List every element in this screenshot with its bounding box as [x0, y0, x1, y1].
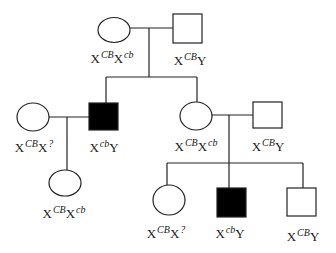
allele-base: X — [42, 206, 51, 221]
allele-base: X — [147, 226, 156, 241]
female-symbol-gen2-wife — [17, 103, 49, 131]
allele-base: X — [170, 226, 179, 241]
allele-superscript: CB — [157, 224, 170, 235]
allele-superscript: CB — [25, 138, 38, 149]
allele-superscript: CB — [184, 51, 197, 62]
allele-superscript: ? — [48, 138, 53, 149]
allele-superscript: CB — [185, 137, 198, 148]
allele-base: Y — [275, 139, 284, 154]
genotype-label-gen1-father: XCBY — [174, 52, 207, 67]
allele-base: X — [215, 226, 224, 241]
allele-superscript: CB — [262, 137, 275, 148]
genotype-label-gen1-mother: XCBXcb — [90, 50, 133, 65]
allele-superscript: ? — [180, 224, 185, 235]
female-symbol-gen1-mother — [98, 18, 130, 43]
genotype-label-gen2-wife: XCBX? — [15, 139, 54, 154]
allele-superscript: cb — [76, 204, 85, 215]
allele-superscript: cb — [100, 138, 109, 149]
allele-superscript: cb — [208, 137, 217, 148]
female-symbol-gen3-granddaughter-left — [49, 170, 81, 196]
affected-male-symbol-gen3-grandson — [217, 188, 246, 217]
allele-base: X — [114, 51, 123, 66]
allele-base: X — [287, 229, 296, 244]
genotype-label-gen2-son: XcbY — [89, 139, 118, 154]
male-symbol-gen1-father — [173, 14, 202, 43]
allele-base: X — [15, 140, 24, 155]
allele-base: X — [252, 139, 261, 154]
allele-base: Y — [235, 226, 244, 241]
allele-superscript: CB — [101, 49, 114, 60]
allele-base: X — [89, 140, 98, 155]
genotype-label-gen2-husband: XCBY — [252, 138, 285, 153]
genotype-label-gen2-daughter: XCBXcb — [174, 138, 217, 153]
allele-base: Y — [197, 53, 206, 68]
allele-superscript: CB — [297, 227, 310, 238]
allele-base: Y — [109, 140, 118, 155]
genotype-label-gen3-grandson-affected: XcbY — [215, 225, 244, 240]
allele-base: X — [90, 51, 99, 66]
male-symbol-gen3-grandson-unaffected — [287, 188, 316, 216]
genotype-label-gen3-granddaughter-left: XCBXcb — [42, 205, 85, 220]
allele-base: X — [38, 140, 47, 155]
allele-base: Y — [310, 229, 319, 244]
allele-base: X — [174, 139, 183, 154]
genotype-label-gen3-grandson-unaffected: XCBY — [287, 228, 320, 243]
allele-superscript: cb — [226, 224, 235, 235]
allele-base: X — [174, 53, 183, 68]
female-symbol-gen2-daughter — [180, 102, 212, 130]
affected-male-symbol-gen2-son — [89, 103, 118, 130]
allele-superscript: cb — [124, 49, 133, 60]
allele-base: X — [198, 139, 207, 154]
allele-base: X — [66, 206, 75, 221]
female-symbol-gen3-granddaughter-right — [153, 185, 185, 215]
male-symbol-gen2-husband — [253, 102, 282, 128]
genotype-label-gen3-granddaughter-right: XCBX? — [147, 225, 186, 240]
allele-superscript: CB — [53, 204, 66, 215]
